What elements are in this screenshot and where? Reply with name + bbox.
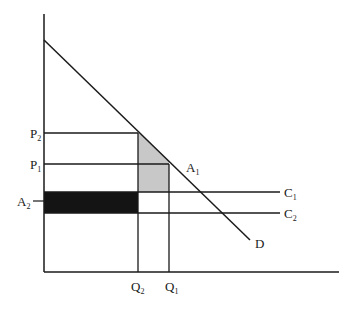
label-p1: P1 <box>30 157 41 174</box>
label-q1: Q1 <box>165 279 178 296</box>
label-a1: A1 <box>186 160 199 177</box>
label-d: D <box>255 236 264 251</box>
label-c1: C1 <box>284 185 297 202</box>
label-q2: Q2 <box>131 279 144 296</box>
label-c2: C2 <box>284 206 297 223</box>
black-shaded-area <box>44 192 138 213</box>
label-a2: A2 <box>17 194 30 211</box>
economics-diagram: P2 P1 A2 A1 C1 C2 D Q2 Q1 <box>0 0 353 310</box>
gray-shaded-area <box>138 131 169 192</box>
label-p2: P2 <box>30 126 41 143</box>
